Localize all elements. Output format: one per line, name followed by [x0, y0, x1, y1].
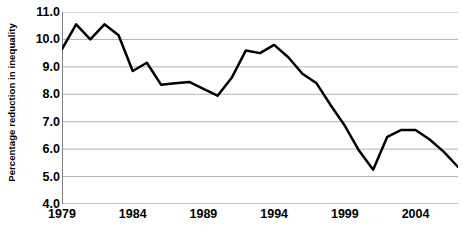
x-tick-label: 1979: [48, 208, 76, 221]
y-tick-label: 10.0: [22, 33, 60, 46]
y-tick-label: 6.0: [22, 143, 60, 156]
y-tick-label: 7.0: [22, 115, 60, 128]
data-series-line: [62, 24, 458, 169]
y-tick-label: 11.0: [22, 6, 60, 19]
plot-area: [62, 12, 458, 204]
y-tick-label: 5.0: [22, 170, 60, 183]
y-tick-label: 8.0: [22, 88, 60, 101]
x-tick-label: 1984: [119, 208, 147, 221]
x-tick-label: 1989: [190, 208, 218, 221]
y-axis-title-container: Percentage reduction in inequality: [0, 0, 22, 205]
y-axis-title: Percentage reduction in inequality: [6, 23, 17, 182]
chart-figure: Percentage reduction in inequality 11.01…: [0, 0, 462, 242]
x-tick-label: 1994: [260, 208, 288, 221]
y-tick-label: 9.0: [22, 61, 60, 74]
x-axis-tick-labels: 197919841989199419992004: [0, 206, 462, 232]
x-tick-label: 1999: [331, 208, 359, 221]
line-chart-svg: [62, 12, 458, 204]
x-tick-label: 2004: [402, 208, 430, 221]
gridlines: [62, 12, 458, 177]
